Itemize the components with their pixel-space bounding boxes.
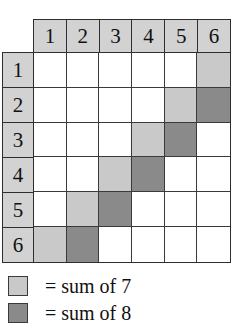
sum-table-figure: 1 2 3 4 5 6 1 2 3 4 5 6 = sum of 7 = sum…	[0, 0, 245, 330]
table-cell-r4-c5	[165, 157, 198, 192]
row-header-6: 6	[3, 228, 33, 262]
row-header-1: 1	[3, 53, 33, 88]
table-cell-r5-c2	[67, 192, 100, 227]
table-cell-r6-c6	[197, 227, 230, 262]
table-cell-r2-c5	[165, 88, 198, 123]
column-header-2: 2	[67, 20, 100, 52]
column-header-3: 3	[100, 20, 133, 52]
table-cell-r1-c6	[197, 53, 230, 88]
table-cell-r3-c2	[67, 123, 100, 158]
table-cell-r3-c5	[165, 123, 198, 158]
table-cell-r2-c3	[99, 88, 132, 123]
table-cell-r6-c1	[34, 227, 67, 262]
table-cell-r1-c3	[99, 53, 132, 88]
table-cell-r5-c4	[132, 192, 165, 227]
legend: = sum of 7 = sum of 8	[0, 272, 245, 330]
column-header-6: 6	[198, 20, 230, 52]
legend-label: = sum of 7	[45, 276, 131, 296]
column-header-row: 1 2 3 4 5 6	[33, 19, 231, 53]
table-cell-r4-c1	[34, 157, 67, 192]
table-cell-r4-c3	[99, 157, 132, 192]
table-cell-r3-c1	[34, 123, 67, 158]
table-cell-r6-c5	[165, 227, 198, 262]
legend-item: = sum of 7	[0, 272, 245, 299]
table-cell-r6-c3	[99, 227, 132, 262]
table-cell-r1-c5	[165, 53, 198, 88]
legend-swatch-light	[8, 276, 28, 296]
table-cell-r4-c6	[197, 157, 230, 192]
table-cell-r5-c6	[197, 192, 230, 227]
table-cell-r4-c4	[132, 157, 165, 192]
table-cell-r5-c3	[99, 192, 132, 227]
legend-label: = sum of 8	[45, 303, 131, 323]
row-header-column: 1 2 3 4 5 6	[2, 52, 34, 263]
table-cell-r4-c2	[67, 157, 100, 192]
table-cell-r5-c1	[34, 192, 67, 227]
row-header-4: 4	[3, 158, 33, 193]
column-header-4: 4	[132, 20, 165, 52]
row-header-5: 5	[3, 193, 33, 228]
table-cell-r1-c2	[67, 53, 100, 88]
row-header-2: 2	[3, 88, 33, 123]
table-cell-r3-c4	[132, 123, 165, 158]
table-cell-r6-c2	[67, 227, 100, 262]
column-header-5: 5	[165, 20, 198, 52]
legend-swatch-dark	[8, 303, 28, 323]
dice-sum-table: 1 2 3 4 5 6 1 2 3 4 5 6	[0, 0, 245, 268]
table-body-grid	[33, 52, 231, 263]
table-cell-r6-c4	[132, 227, 165, 262]
table-cell-r2-c4	[132, 88, 165, 123]
table-cell-r5-c5	[165, 192, 198, 227]
legend-item: = sum of 8	[0, 299, 245, 326]
table-cell-r3-c6	[197, 123, 230, 158]
table-cell-r1-c1	[34, 53, 67, 88]
column-header-1: 1	[34, 20, 67, 52]
table-cell-r2-c2	[67, 88, 100, 123]
row-header-3: 3	[3, 123, 33, 158]
table-cell-r1-c4	[132, 53, 165, 88]
table-cell-r3-c3	[99, 123, 132, 158]
table-cell-r2-c1	[34, 88, 67, 123]
table-cell-r2-c6	[197, 88, 230, 123]
